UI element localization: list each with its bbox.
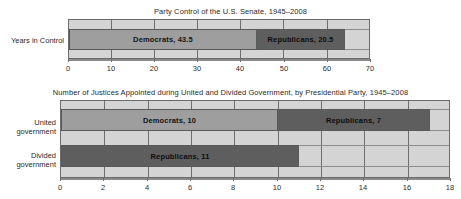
bar-divided-republicans[interactable]: Republicans, 11 — [61, 145, 299, 167]
chart1-plot-area: Democrats, 43.5 Republicans, 20.5 — [68, 19, 370, 59]
xtick-2 — [103, 178, 104, 181]
xtick-8 — [233, 178, 234, 181]
xtick-label-60: 60 — [323, 64, 331, 73]
xtick-60 — [327, 59, 328, 62]
xtick-label-40: 40 — [236, 64, 244, 73]
xtick-10 — [277, 178, 278, 181]
chart2-title: Number of Justices Appointed during Unit… — [0, 88, 461, 97]
xtick-6 — [190, 178, 191, 181]
xtick-label-50: 50 — [280, 64, 288, 73]
bar-senate-republicans[interactable]: Republicans, 20.5 — [256, 29, 345, 50]
xtick-label-8: 8 — [231, 183, 235, 192]
xtick-4 — [147, 178, 148, 181]
chart2-cat1-line2: government — [2, 127, 56, 136]
chart1-category-label: Years in Control — [2, 36, 64, 45]
xtick-label-14: 14 — [359, 183, 367, 192]
xtick-16 — [407, 178, 408, 181]
xtick-label-18: 18 — [446, 183, 454, 192]
chart2-category-label-united: United government — [2, 118, 56, 136]
xtick-12 — [320, 178, 321, 181]
xtick-50 — [284, 59, 285, 62]
xtick-label-4: 4 — [145, 183, 149, 192]
xtick-label-16: 16 — [403, 183, 411, 192]
xtick-label-10: 10 — [273, 183, 281, 192]
xtick-30 — [197, 59, 198, 62]
xtick-18 — [450, 178, 451, 181]
bar-senate-democrats[interactable]: Democrats, 43.5 — [69, 29, 257, 50]
chart1-x-axis — [68, 59, 371, 61]
xtick-0 — [60, 178, 61, 181]
xtick-label-0: 0 — [58, 183, 62, 192]
chart1-title: Party Control of the U.S. Senate, 1945–2… — [0, 7, 461, 16]
xtick-label-2: 2 — [101, 183, 105, 192]
xtick-40 — [240, 59, 241, 62]
xtick-14 — [363, 178, 364, 181]
chart2-x-axis — [60, 178, 451, 180]
chart2-category-label-divided: Divided government — [2, 151, 56, 169]
xtick-label-70: 70 — [366, 64, 374, 73]
xtick-70 — [370, 59, 371, 62]
bar-united-democrats[interactable]: Democrats, 10 — [61, 109, 278, 131]
xtick-20 — [154, 59, 155, 62]
xtick-0 — [68, 59, 69, 62]
chart2-cat2-line1: Divided — [2, 151, 56, 160]
chart2-cat1-line1: United — [2, 118, 56, 127]
xtick-label-20: 20 — [150, 64, 158, 73]
xtick-label-30: 30 — [193, 64, 201, 73]
xtick-label-0: 0 — [66, 64, 70, 73]
xtick-label-12: 12 — [316, 183, 324, 192]
xtick-label-10: 10 — [107, 64, 115, 73]
chart2-plot-area: Democrats, 10 Republicans, 7 Republicans… — [60, 100, 450, 178]
chart2-cat2-line2: government — [2, 160, 56, 169]
bar-united-republicans[interactable]: Republicans, 7 — [277, 109, 430, 131]
xtick-label-6: 6 — [188, 183, 192, 192]
xtick-10 — [111, 59, 112, 62]
